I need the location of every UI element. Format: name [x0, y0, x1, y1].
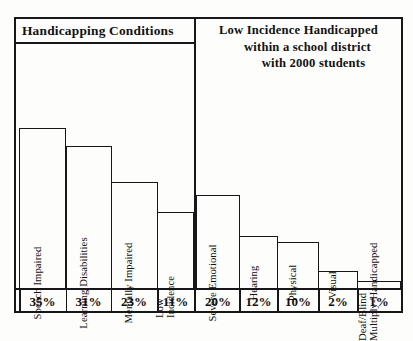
percent-value-low-incidence: 11% [157, 290, 194, 313]
percent-value-learning-disabilities: 31% [66, 290, 112, 313]
left-chart-panel: Handicapping Conditions Speech Impaired … [16, 19, 194, 313]
percent-value-physical: 10% [277, 290, 319, 313]
bar-hearing[interactable]: Hearing [239, 236, 278, 290]
bar-label-deaf-blind-line1: Deaf/Blind [357, 233, 368, 341]
percent-value-visual: 2% [318, 290, 358, 313]
bar-deaf-blind-multiply-handicapped[interactable]: Deaf/Blind Multiply-Handicapped [357, 281, 401, 290]
percent-value-severe-emotional: 20% [196, 290, 240, 313]
right-chart-panel: Low Incidence Handicapped within a schoo… [196, 19, 401, 313]
bar-mentally-impaired[interactable]: Mentally Impaired [111, 182, 158, 290]
percent-value-hearing: 12% [239, 290, 278, 313]
percent-value-mentally-impaired: 23% [111, 290, 158, 313]
left-bars-group: Speech Impaired Learning Disabilities Me… [16, 19, 194, 290]
bar-label-learning-disabilities: Learning Disabilities [78, 237, 89, 328]
percent-value-speech-impaired: 35% [19, 290, 66, 313]
bar-physical[interactable]: Physical [277, 242, 319, 290]
bar-severe-emotional[interactable]: Severe Emotional [196, 195, 240, 290]
right-bars-group: Severe Emotional Hearing Physical Visual… [196, 19, 401, 290]
bar-speech-impaired[interactable]: Speech Impaired [19, 128, 66, 290]
bar-visual[interactable]: Visual [318, 271, 358, 290]
right-percent-row: 20% 12% 10% 2% 1% [196, 290, 401, 313]
chart-figure: Handicapping Conditions Speech Impaired … [14, 17, 403, 313]
bar-low-incidence[interactable]: Low Incidence [157, 212, 194, 290]
left-percent-row: 35% 31% 23% 11% [16, 290, 194, 313]
bar-learning-disabilities[interactable]: Learning Disabilities [66, 146, 112, 290]
bar-label-deaf-blind-line2: Multiply-Handicapped [368, 233, 379, 341]
percent-value-deaf-blind-multiply-handicapped: 1% [357, 290, 401, 313]
bar-label-deaf-blind-multiply-handicapped: Deaf/Blind Multiply-Handicapped [357, 233, 379, 341]
